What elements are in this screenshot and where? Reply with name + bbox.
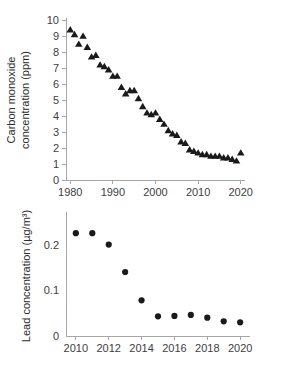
- x-tick-label-2010: 2010: [64, 342, 88, 354]
- y-tick-label-0: 0: [53, 330, 59, 342]
- x-tick-label-2020: 2020: [228, 342, 252, 354]
- x-tick-label-2020: 2020: [228, 186, 252, 196]
- data-point: [92, 52, 100, 58]
- y-tick-label-7: 7: [53, 62, 59, 74]
- data-point: [84, 44, 92, 50]
- data-point: [89, 230, 95, 236]
- y-tick-label-0.1: 0.1: [44, 284, 59, 296]
- figure-page: 01234567891019801990200020102020Carbon m…: [0, 0, 281, 382]
- y-tick-label-5: 5: [53, 94, 59, 106]
- y-axis-title-line1: Carbon monoxide: [5, 57, 17, 144]
- y-tick-label-0: 0: [53, 174, 59, 186]
- data-point: [171, 313, 177, 319]
- x-tick-label-1980: 1980: [58, 186, 82, 196]
- data-point: [152, 109, 160, 115]
- data-point: [73, 230, 79, 236]
- y-tick-label-0.2: 0.2: [44, 239, 59, 251]
- y-axis-title: Carbon monoxideconcentration (ppm): [5, 51, 31, 149]
- x-tick-label-1990: 1990: [101, 186, 125, 196]
- data-point: [135, 95, 143, 101]
- data-point: [155, 313, 161, 319]
- data-point: [237, 149, 245, 155]
- y-axis-title-text: Lead concentration (µg/m³): [20, 210, 32, 342]
- x-tick-label-2010: 2010: [186, 186, 210, 196]
- x-tick-label-2000: 2000: [143, 186, 167, 196]
- y-tick-label-2: 2: [53, 142, 59, 154]
- y-axis-title-line2: concentration (ppm): [19, 51, 31, 149]
- y-tick-label-9: 9: [53, 30, 59, 42]
- data-point: [118, 84, 126, 90]
- x-tick-label-2018: 2018: [195, 342, 219, 354]
- x-tick-label-2016: 2016: [162, 342, 186, 354]
- data-point: [139, 103, 147, 109]
- data-point: [122, 269, 128, 275]
- data-point-group: [66, 26, 244, 164]
- data-point: [79, 32, 87, 38]
- data-point: [188, 312, 194, 318]
- y-tick-label-4: 4: [53, 110, 59, 122]
- data-point: [237, 319, 243, 325]
- data-point: [138, 297, 144, 303]
- y-tick-label-3: 3: [53, 126, 59, 138]
- carbon-monoxide-plot: 01234567891019801990200020102020Carbon m…: [0, 0, 281, 196]
- data-point: [75, 40, 83, 46]
- lead-chart: 00.10.2201020122014201620182020Lead conc…: [0, 196, 281, 382]
- y-tick-label-6: 6: [53, 78, 59, 90]
- x-tick-label-2012: 2012: [96, 342, 120, 354]
- data-point: [106, 241, 112, 247]
- lead-plot: 00.10.2201020122014201620182020Lead conc…: [0, 196, 281, 382]
- carbon-monoxide-chart: 01234567891019801990200020102020Carbon m…: [0, 0, 281, 196]
- data-point-group: [73, 230, 243, 325]
- data-point: [165, 127, 173, 133]
- data-point: [66, 26, 74, 32]
- y-tick-label-8: 8: [53, 46, 59, 58]
- y-tick-label-10: 10: [47, 14, 59, 26]
- y-tick-label-1: 1: [53, 158, 59, 170]
- y-axis-title: Lead concentration (µg/m³): [20, 210, 32, 342]
- data-point: [156, 116, 164, 122]
- x-tick-label-2014: 2014: [129, 342, 153, 354]
- data-point: [204, 315, 210, 321]
- data-point: [221, 318, 227, 324]
